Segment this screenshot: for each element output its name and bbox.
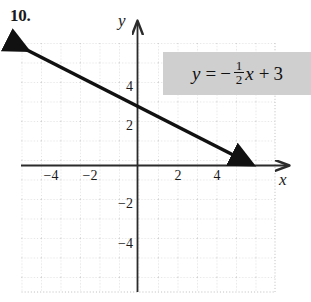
equation-minus-sign: − <box>220 63 233 85</box>
equation-variable: x <box>244 63 254 85</box>
y-axis-label: y <box>118 11 126 31</box>
equation-fraction: 1 2 <box>234 59 245 87</box>
coordinate-plane <box>0 0 311 302</box>
y-tick-label-minus4: −4 <box>107 236 133 252</box>
fraction-denominator: 2 <box>234 73 245 86</box>
equation-lhs: y <box>191 63 201 85</box>
x-tick-label-4: 4 <box>207 168 227 184</box>
x-tick-label-minus4: −4 <box>40 168 62 184</box>
equation-equals-sign: = <box>201 63 220 85</box>
equation-plus-sign: + <box>255 63 274 85</box>
x-tick-label-minus2: −2 <box>79 168 101 184</box>
x-tick-label-2: 2 <box>168 168 188 184</box>
x-axis-label: x <box>279 170 287 190</box>
y-tick-label-2: 2 <box>115 118 133 134</box>
graph-figure: 10. −4 <box>0 0 311 302</box>
y-tick-label-minus2: −2 <box>107 196 133 212</box>
equation-callout: y = − 1 2 x + 3 <box>163 52 311 95</box>
equation-constant: 3 <box>274 63 284 85</box>
fraction-numerator: 1 <box>234 59 245 73</box>
y-tick-label-4: 4 <box>115 79 133 95</box>
